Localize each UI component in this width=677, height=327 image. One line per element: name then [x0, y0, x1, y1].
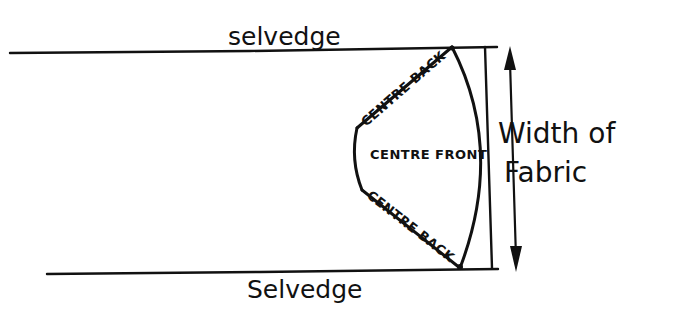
fabric-layout-diagram: selvedge Selvedge CENTRE BACK CENTRE FRO…: [0, 0, 677, 327]
apex-bottom: [457, 264, 463, 270]
width-of-fabric-label-line1: Width of: [498, 117, 616, 150]
diagram-svg: selvedge Selvedge CENTRE BACK CENTRE FRO…: [0, 0, 677, 327]
centre-front-label: CENTRE FRONT: [370, 147, 487, 162]
selvedge-bottom-line: [47, 269, 498, 274]
waist-curve: [354, 128, 362, 190]
centre-back-top-label: CENTRE BACK: [358, 48, 449, 130]
width-of-fabric-label-line2: Fabric: [504, 156, 587, 189]
centre-back-bottom-label: CENTRE BACK: [364, 188, 458, 266]
apex-top: [450, 46, 455, 51]
arrow-up-icon: [504, 46, 516, 70]
arrow-down-icon: [510, 246, 522, 272]
selvedge-top-label: selvedge: [228, 22, 341, 51]
selvedge-bottom-label: Selvedge: [247, 275, 363, 304]
